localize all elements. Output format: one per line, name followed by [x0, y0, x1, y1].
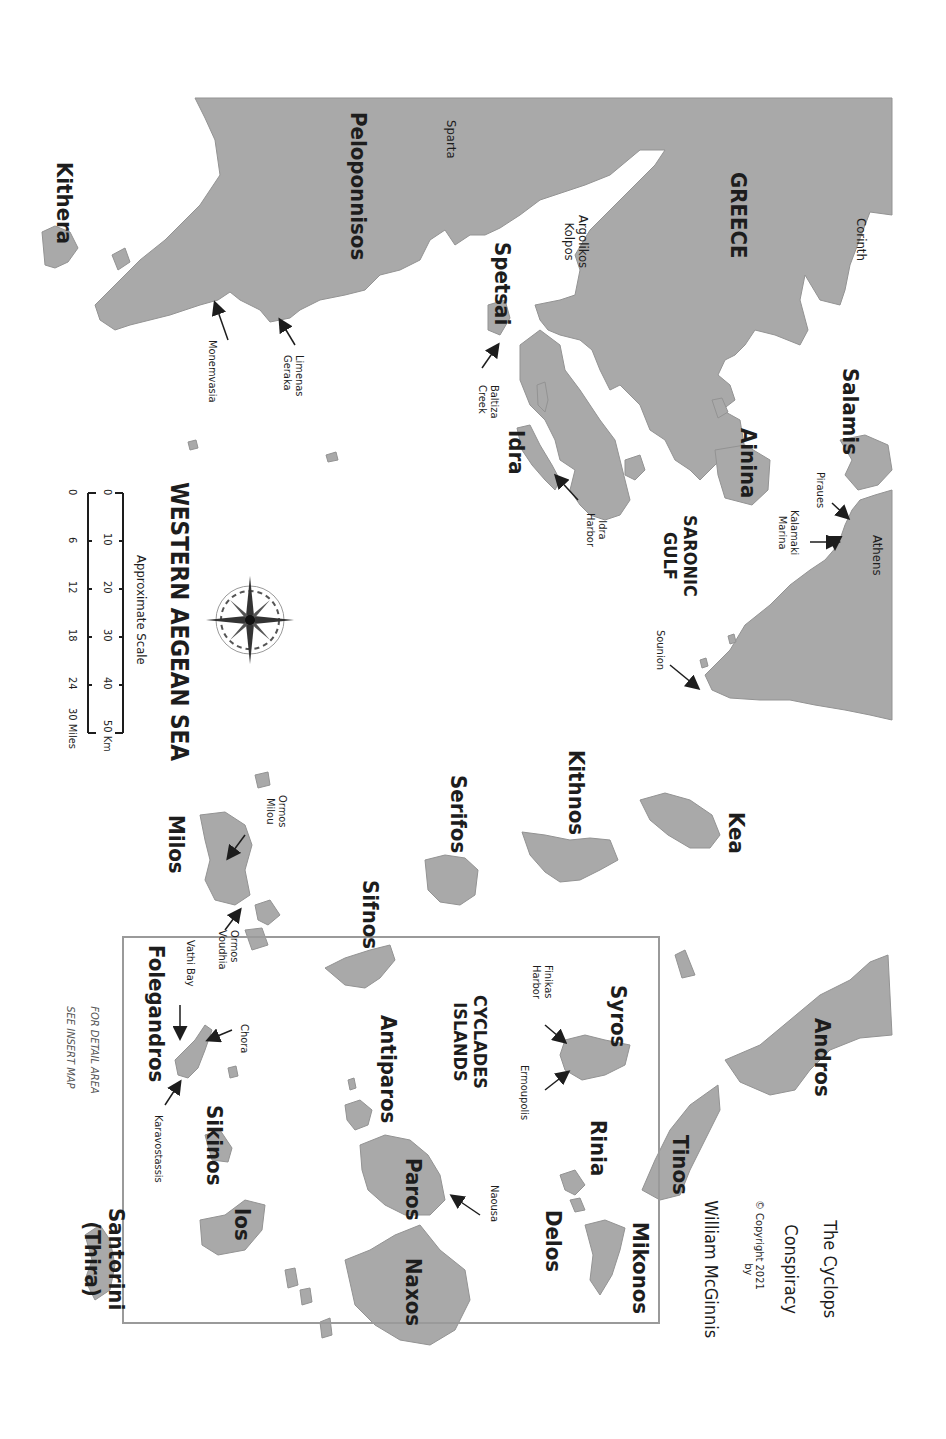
mile-tick-30: 30 Miles: [66, 708, 78, 749]
land-islet-sounion: [700, 658, 708, 668]
land-islet-2: [188, 440, 198, 450]
label-paros: Paros: [401, 1158, 425, 1220]
kalamaki-line2: Marina: [776, 516, 789, 550]
label-saronic-gulf: SARONICGULF: [660, 515, 700, 597]
label-greece: GREECE: [726, 172, 750, 259]
label-serifos: Serifos: [446, 775, 470, 853]
inset-note: FOR DETAIL AREA SEE INSERT MAP: [64, 1000, 112, 1094]
label-folegandros: Folegandros: [144, 945, 168, 1082]
label-santorini: Santorini(Thira): [80, 1208, 128, 1310]
label-rinia: Rinia: [586, 1120, 610, 1176]
label-argolikos-kolpos: ArgolikosKolpos: [561, 215, 590, 268]
scale-bar-miles: [88, 493, 96, 733]
mile-tick-18: 18: [66, 629, 78, 642]
inset-note-line2: SEE INSERT MAP: [64, 1006, 77, 1088]
book-title-line2: Conspiracy: [781, 1224, 802, 1314]
label-naousa: Naousa: [488, 1185, 500, 1222]
label-sounion: Sounion: [654, 630, 666, 670]
label-sparta: Sparta: [444, 120, 458, 159]
ormos-milou-line2: Milou: [264, 798, 277, 824]
land-kea: [640, 793, 720, 848]
ormos-voudhia-line2: Voudhia: [216, 930, 229, 970]
inset-note-line1: FOR DETAIL AREA: [88, 1006, 101, 1093]
mile-tick-24: 24: [66, 677, 78, 690]
land-islet-5: [728, 634, 736, 644]
label-kithera: Kithera: [52, 162, 76, 244]
km-tick-20: 20: [101, 581, 113, 594]
land-andros: [725, 955, 892, 1095]
scale-bar-km: [115, 493, 123, 733]
label-idra-harbor: IdraHarbor: [584, 513, 608, 547]
finikas-line1: Finikas: [542, 965, 555, 998]
argolikos-line1: Argolikos: [576, 215, 591, 268]
land-islet-1: [112, 248, 130, 270]
baltiza-line2: Creek: [476, 385, 489, 414]
label-vathi-bay: Vathi Bay: [184, 940, 196, 987]
ormos-voudhia-line1: Ormos: [228, 930, 241, 963]
label-ormos-voudhia: OrmosVoudhia: [216, 930, 240, 970]
label-piraues: Piraues: [814, 472, 826, 508]
label-corinth: Corinth: [854, 218, 868, 261]
km-tick-30: 30: [101, 629, 113, 642]
limenas-line2: Geraka: [281, 355, 294, 391]
land-kithnos: [522, 832, 618, 882]
limenas-line1: Limenas: [293, 355, 306, 397]
label-naxos: Naxos: [401, 1258, 425, 1326]
label-kea: Kea: [724, 812, 748, 854]
label-syros: Syros: [606, 985, 630, 1047]
saronic-line1: SARONIC: [680, 515, 701, 597]
scale-label: Approximate Scale: [134, 555, 148, 665]
land-poros: [625, 455, 645, 480]
label-sifnos: Sifnos: [358, 880, 382, 949]
label-limenas-geraka: LimenasGeraka: [281, 355, 305, 397]
finikas-line2: Harbor: [530, 965, 543, 999]
cyclades-line2: ISLANDS: [450, 1002, 471, 1081]
label-ormos-milou: OrmosMilou: [264, 795, 288, 828]
label-ios: Ios: [230, 1208, 254, 1241]
mile-tick-12: 12: [66, 581, 78, 594]
label-sikinos: Sikinos: [202, 1105, 226, 1185]
label-mikonos: Mikonos: [628, 1222, 652, 1314]
book-title-line1: The Cyclops: [820, 1220, 841, 1318]
santorini-line2: (Thira): [80, 1221, 105, 1297]
label-milos: Milos: [164, 815, 188, 874]
book-credit: The Cyclops Conspiracy by William McGinn…: [702, 1190, 860, 1338]
saronic-line2: GULF: [660, 532, 681, 580]
book-author: William McGinnis: [701, 1200, 722, 1338]
mile-tick-6: 6: [66, 537, 78, 543]
label-karavostassis: Karavostassis: [152, 1115, 164, 1183]
label-andros: Andros: [810, 1018, 834, 1097]
label-kithnos: Kithnos: [564, 750, 588, 835]
land-serifos: [425, 855, 478, 905]
mile-tick-0: 0: [66, 489, 78, 495]
map-title: WESTERN AEGEAN SEA: [166, 482, 192, 761]
land-milos: [200, 812, 252, 905]
label-ainina: Ainina: [736, 428, 760, 498]
argolikos-line2: Kolpos: [562, 223, 577, 261]
label-salamis: Salamis: [838, 368, 862, 455]
label-ermoupolis: Ermoupolis: [518, 1065, 530, 1120]
kalamaki-line1: Kalamaki: [788, 510, 801, 555]
label-chora: Chora: [238, 1024, 250, 1053]
ormos-milou-line1: Ormos: [276, 795, 289, 828]
label-idra: Idra: [504, 430, 528, 475]
copyright-text: © Copyright 2021: [753, 1200, 765, 1290]
label-peloponnisos: Peloponnisos: [346, 112, 370, 260]
label-delos: Delos: [541, 1210, 565, 1272]
km-tick-0: 0: [101, 489, 113, 495]
km-tick-10: 10: [101, 533, 113, 546]
label-cyclades: CYCLADESISLANDS: [450, 995, 490, 1089]
land-islet-6: [255, 772, 270, 788]
label-spetsai: Spetsai: [490, 242, 514, 325]
label-antiparos: Antiparos: [376, 1015, 400, 1123]
compass-rose-icon: [206, 576, 294, 664]
label-tinos: Tinos: [668, 1135, 692, 1195]
land-islet-7: [675, 950, 695, 978]
idra-harbor-line1: Idra: [596, 520, 609, 539]
land-kimolos: [255, 900, 280, 925]
label-finikas-harbor: FinikasHarbor: [530, 965, 554, 999]
label-baltiza-creek: BaltizaCreek: [476, 385, 500, 419]
label-monemvasia: Monemvasia: [206, 340, 218, 403]
baltiza-line1: Baltiza: [488, 385, 501, 419]
label-athens: Athens: [870, 535, 884, 575]
